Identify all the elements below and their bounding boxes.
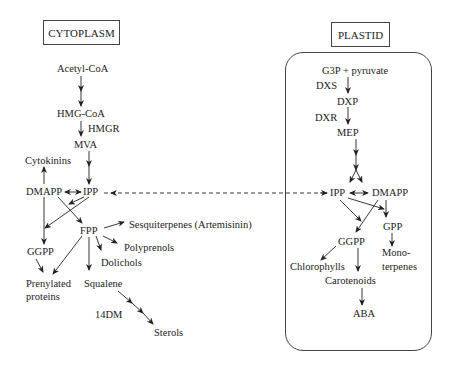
pathway-arrows (0, 0, 452, 367)
mep-label: MEP (337, 127, 359, 139)
cytoplasm-ggpp-label: GGPP (27, 246, 54, 258)
dxs-enzyme-label: DXS (316, 80, 337, 92)
cytoplasm-dmapp-label: DMAPP (26, 186, 62, 198)
cytoplasm-ipp-label: IPP (83, 186, 98, 198)
carotenoids-label: Carotenoids (325, 275, 376, 287)
mva-label: MVA (74, 139, 97, 151)
sterols-label: Sterols (154, 327, 183, 339)
chlorophylls-label: Chlorophylls (290, 261, 345, 273)
gpp-label: GPP (383, 221, 402, 233)
dxp-label: DXP (337, 96, 358, 108)
cytokinins-label: Cytokinins (25, 155, 71, 167)
sesquiterpenes-label: Sesquiterpenes (Artemisinin) (129, 219, 252, 231)
g3p-pyruvate-label: G3P + pyruvate (322, 65, 388, 77)
plastid-ggpp-label: GGPP (338, 236, 365, 248)
plastid-ipp-label: IPP (330, 187, 345, 199)
fpp-label: FPP (80, 225, 98, 237)
prenylated-proteins-label-line2: proteins (26, 291, 60, 303)
dolichols-label: Dolichols (101, 257, 142, 269)
monoterpenes-label-line1: Mono- (382, 247, 411, 259)
hmg-coa-label: HMG-CoA (57, 108, 105, 120)
acetyl-coa-label: Acetyl-CoA (57, 63, 108, 75)
dxr-enzyme-label: DXR (315, 112, 337, 124)
plastid-dmapp-label: DMAPP (372, 187, 408, 199)
prenylated-proteins-label-line1: Prenylated (26, 278, 71, 290)
squalene-label: Squalene (84, 278, 123, 290)
14dm-enzyme-label: 14DM (95, 309, 122, 321)
monoterpenes-label-line2: terpenes (382, 261, 417, 273)
aba-label: ABA (353, 308, 375, 320)
hmgr-enzyme-label: HMGR (88, 123, 120, 135)
polyprenols-label: Polyprenols (124, 242, 174, 254)
